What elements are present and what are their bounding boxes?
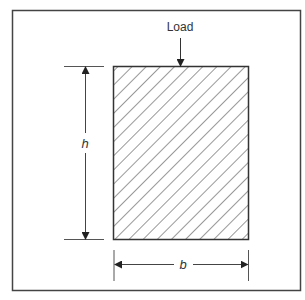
width-label: b bbox=[179, 257, 186, 272]
beam-cross-section-diagram: Load h b bbox=[0, 0, 305, 300]
cross-section-rectangle bbox=[114, 67, 249, 240]
height-label: h bbox=[81, 136, 88, 151]
height-dimension bbox=[64, 67, 104, 240]
load-label: Load bbox=[167, 20, 194, 34]
